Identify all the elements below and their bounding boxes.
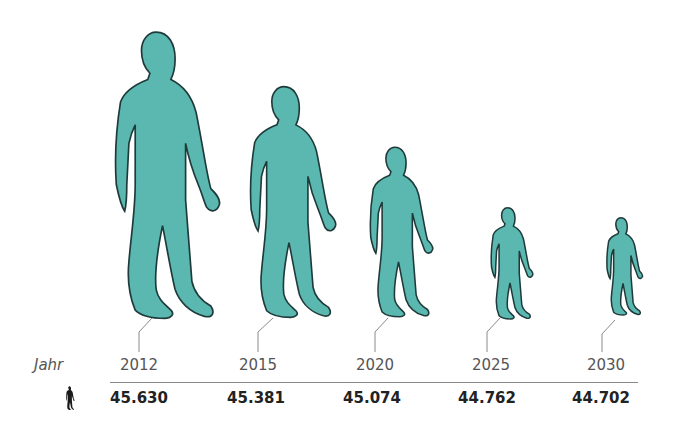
figures-layer: [0, 0, 684, 426]
year-label: 2030: [587, 356, 625, 374]
figure-2015: [250, 87, 335, 318]
pictogram-chart: Jahr 2012 2015 2020 2025 2030 45.630 45.…: [0, 0, 684, 426]
value-label: 45.381: [227, 389, 285, 407]
figure-2030: [607, 218, 643, 315]
year-label: 2015: [239, 356, 277, 374]
year-row-label: Jahr: [34, 356, 63, 374]
value-label: 44.702: [572, 389, 630, 407]
person-icon: [65, 386, 75, 410]
figure-2025: [491, 208, 533, 319]
year-label: 2025: [472, 356, 510, 374]
figure-2012: [115, 32, 219, 318]
year-label: 2020: [356, 356, 394, 374]
value-label: 45.074: [343, 389, 401, 407]
value-label: 44.762: [458, 389, 516, 407]
leader-lines: [139, 318, 615, 352]
value-label: 45.630: [110, 389, 168, 407]
figure-2020: [370, 147, 432, 317]
year-label: 2012: [120, 356, 158, 374]
divider-line: [110, 382, 638, 383]
